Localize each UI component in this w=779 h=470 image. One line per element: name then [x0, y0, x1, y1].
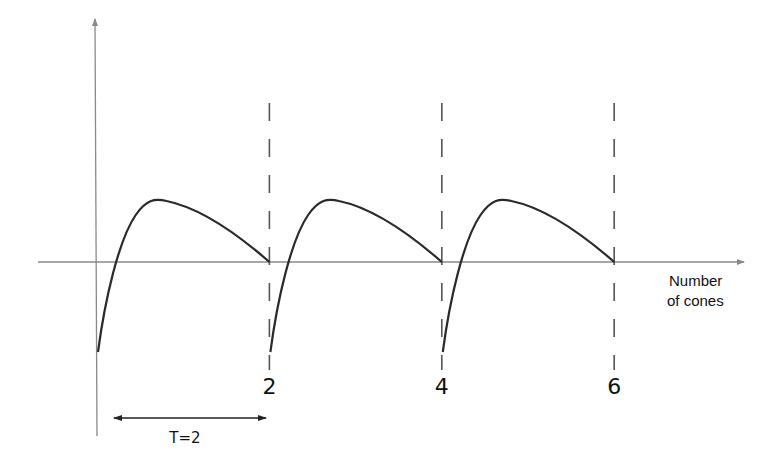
periodic-curve-segment: [270, 200, 441, 352]
x-axis-label-line1: Number: [669, 272, 722, 289]
x-tick-label: 2: [262, 374, 276, 399]
periodic-diagram: 246 T=2 Number of cones: [0, 0, 779, 470]
x-axis-label-line2: of cones: [667, 292, 724, 309]
x-tick-label: 6: [607, 374, 621, 399]
period-label: T=2: [168, 429, 200, 447]
periodic-curve-segment: [98, 200, 269, 352]
x-tick-label: 4: [435, 374, 449, 399]
periodic-curve-segment: [443, 200, 614, 352]
y-axis: [95, 19, 97, 436]
